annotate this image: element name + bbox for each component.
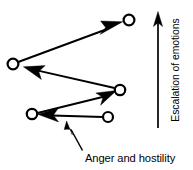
left-node [8, 59, 19, 70]
arrow-middle-right-to-left-head [23, 66, 45, 80]
escalation-axis-group [153, 12, 162, 129]
arrow-lower-right-to-lower-left-shaft [52, 116, 103, 118]
caption-label: Anger and hostility [85, 152, 176, 164]
arrow-middle-right-to-left-shaft [38, 71, 115, 88]
pointer-arrow-icon-head [64, 121, 72, 135]
lower-left-node [27, 109, 37, 119]
escalation-axis-label: Escalation of emotions [170, 18, 181, 121]
arrow-left-to-top-right-head [100, 21, 123, 34]
lower-right-node [103, 112, 113, 122]
pointer-arrow-icon-shaft [71, 130, 83, 151]
escalation-path-group [18, 21, 123, 122]
caption-pointer-group [64, 121, 82, 151]
arrow-left-to-top-right-shaft [18, 30, 106, 63]
top-right-node [124, 15, 135, 26]
diagram-canvas: Anger and hostility Escalation of emotio… [0, 0, 193, 170]
escalation-diagram: Anger and hostility Escalation of emotio… [0, 0, 193, 170]
arrow-lower-left-to-middle-right-shaft [38, 97, 105, 114]
middle-right-node [115, 85, 125, 95]
